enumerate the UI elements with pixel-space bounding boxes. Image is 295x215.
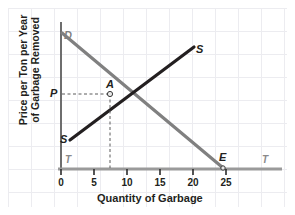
x-tick-label-25: 25 bbox=[217, 178, 235, 188]
x-tick-label-20: 20 bbox=[184, 178, 202, 188]
supply-curve-label-s-top: S bbox=[196, 44, 203, 55]
y-axis-title: Price per Ton per Year of Garbage Remove… bbox=[17, 0, 41, 145]
y-axis-title-line1: Price per Ton per Year bbox=[17, 0, 29, 145]
y-axis-title-line2: of Garbage Removed bbox=[29, 0, 41, 145]
economics-supply-demand-chart: Price per Ton per Year of Garbage Remove… bbox=[0, 0, 295, 215]
point-a-label: A bbox=[106, 79, 114, 90]
point-e-label: E bbox=[219, 152, 226, 163]
t-line-label-left: T bbox=[65, 155, 71, 165]
x-tick-label-0: 0 bbox=[55, 178, 67, 188]
x-tick-label-5: 5 bbox=[88, 178, 100, 188]
x-tick-label-15: 15 bbox=[151, 178, 169, 188]
price-p-label: P bbox=[50, 88, 57, 99]
point-e-marker bbox=[221, 166, 225, 170]
x-tick-label-10: 10 bbox=[118, 178, 136, 188]
point-a-marker bbox=[107, 91, 112, 96]
chart-plot-area bbox=[0, 0, 295, 215]
demand-curve-label-d: D bbox=[64, 30, 72, 41]
t-line-label-right: T bbox=[262, 155, 268, 165]
x-axis-title: Quantity of Garbage bbox=[97, 193, 203, 204]
supply-curve-label-s-bottom: S bbox=[60, 134, 67, 145]
